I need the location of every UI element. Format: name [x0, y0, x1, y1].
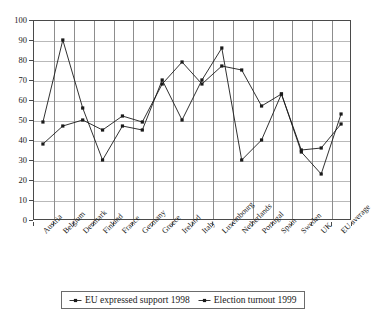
- data-point-marker: [81, 106, 84, 109]
- data-point-marker: [280, 92, 283, 95]
- data-point-marker: [260, 138, 263, 141]
- data-point-marker: [41, 120, 44, 123]
- data-point-marker: [101, 128, 104, 131]
- legend-marker-icon: [198, 296, 211, 305]
- legend-entry: EU expressed support 1998: [69, 295, 190, 305]
- x-tick-mark: [351, 222, 352, 226]
- y-tick-label: 100: [14, 16, 27, 25]
- y-tick-label: 80: [19, 56, 28, 65]
- y-tick-label: 10: [19, 196, 28, 205]
- x-tick-mark: [311, 222, 312, 226]
- x-tick-mark: [212, 222, 213, 226]
- y-tick-label: 90: [19, 36, 28, 45]
- y-tick-label: 70: [19, 76, 28, 85]
- y-tick-label: 40: [19, 136, 28, 145]
- x-tick-mark: [331, 222, 332, 226]
- data-point-marker: [339, 122, 342, 125]
- data-point-marker: [320, 146, 323, 149]
- y-tick-label: 50: [19, 116, 28, 125]
- legend-marker-icon: [69, 296, 82, 305]
- data-point-marker: [320, 172, 323, 175]
- x-tick-mark: [192, 222, 193, 226]
- data-point-marker: [101, 158, 104, 161]
- series-2: [41, 38, 342, 175]
- y-axis: 0102030405060708090100: [0, 0, 33, 240]
- data-point-marker: [260, 104, 263, 107]
- data-point-marker: [300, 150, 303, 153]
- data-point-marker: [240, 158, 243, 161]
- x-tick-mark: [152, 222, 153, 226]
- x-tick-mark: [33, 222, 34, 226]
- series-1: [41, 60, 342, 151]
- chart-legend: EU expressed support 1998Election turnou…: [61, 291, 305, 309]
- data-point-marker: [141, 120, 144, 123]
- series-layer: [33, 20, 351, 220]
- legend-entry: Election turnout 1999: [198, 295, 297, 305]
- x-tick-mark: [73, 222, 74, 226]
- data-point-marker: [41, 142, 44, 145]
- y-tick-label: 20: [19, 176, 28, 185]
- data-point-marker: [220, 64, 223, 67]
- data-point-marker: [61, 38, 64, 41]
- data-point-marker: [220, 46, 223, 49]
- data-point-marker: [180, 118, 183, 121]
- data-point-marker: [141, 128, 144, 131]
- y-tick-label: 0: [23, 216, 27, 225]
- x-tick-mark: [232, 222, 233, 226]
- x-tick-mark: [272, 222, 273, 226]
- data-point-marker: [240, 68, 243, 71]
- data-point-marker: [161, 78, 164, 81]
- data-point-marker: [121, 124, 124, 127]
- y-tick-label: 30: [19, 156, 28, 165]
- legend-label: Election turnout 1999: [214, 295, 297, 305]
- x-tick-mark: [291, 222, 292, 226]
- data-point-marker: [200, 78, 203, 81]
- series-line: [43, 40, 341, 174]
- x-tick-mark: [252, 222, 253, 226]
- x-tick-mark: [172, 222, 173, 226]
- x-tick-mark: [93, 222, 94, 226]
- x-axis: AustriaBelgiumDenmarkFinlandFranceGerman…: [33, 222, 351, 288]
- data-point-marker: [61, 124, 64, 127]
- x-tick-mark: [53, 222, 54, 226]
- data-point-marker: [81, 118, 84, 121]
- data-point-marker: [121, 114, 124, 117]
- data-point-marker: [180, 60, 183, 63]
- y-tick-label: 60: [19, 96, 28, 105]
- legend-label: EU expressed support 1998: [85, 295, 190, 305]
- data-point-marker: [339, 112, 342, 115]
- x-tick-mark: [113, 222, 114, 226]
- x-tick-label: Italy: [200, 219, 217, 236]
- x-tick-mark: [132, 222, 133, 226]
- y-tick-mark: [29, 220, 33, 221]
